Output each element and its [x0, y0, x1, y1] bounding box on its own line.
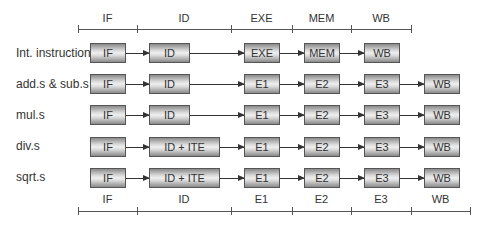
stage-box-if: IF [90, 168, 126, 188]
row-label: add.s & sub.s [16, 77, 89, 91]
stage-box-e3: E3 [364, 168, 400, 188]
stage-box-id: ID [149, 105, 190, 125]
bottom-stage-label-id: ID [137, 193, 231, 205]
stage-box-wb: WB [364, 43, 400, 63]
arrow-icon [126, 178, 149, 179]
arrow-icon [220, 147, 244, 148]
arrow-icon [190, 115, 244, 116]
arrow-icon [280, 53, 304, 54]
stage-box-if: IF [90, 137, 126, 157]
stage-box-wb: WB [424, 137, 460, 157]
stage-box-wb: WB [424, 105, 460, 125]
row-label: Int. instructions [16, 46, 97, 60]
stage-box-id: ID [149, 43, 190, 63]
bottom-stage-label-e2: E2 [292, 193, 351, 205]
bottom-timeline-tick [411, 207, 412, 215]
bottom-stage-label-wb: WB [411, 193, 470, 205]
arrow-icon [340, 178, 364, 179]
stage-box-e1: E1 [244, 137, 280, 157]
stage-box-mem: MEM [304, 43, 340, 63]
stage-box-e2: E2 [304, 74, 340, 94]
bottom-timeline-tick [231, 207, 232, 215]
top-stage-label-wb: WB [351, 12, 411, 24]
arrow-icon [126, 115, 149, 116]
stage-box-e3: E3 [364, 105, 400, 125]
stage-box-e2: E2 [304, 105, 340, 125]
top-stage-label-id: ID [137, 12, 231, 24]
stage-box-e2: E2 [304, 137, 340, 157]
bottom-timeline-tick [351, 207, 352, 215]
arrow-icon [340, 115, 364, 116]
top-timeline-axis [78, 29, 411, 30]
bottom-timeline-tick [470, 207, 471, 215]
top-timeline-tick [351, 25, 352, 33]
top-timeline-tick [78, 25, 79, 33]
bottom-stage-label-e3: E3 [351, 193, 411, 205]
top-timeline-tick [231, 25, 232, 33]
bottom-stage-label-e1: E1 [231, 193, 292, 205]
arrow-icon [400, 115, 424, 116]
arrow-icon [220, 178, 244, 179]
stage-box-e2: E2 [304, 168, 340, 188]
top-timeline-tick [292, 25, 293, 33]
top-timeline-tick [137, 25, 138, 33]
row-label: mul.s [16, 108, 45, 122]
arrow-icon [280, 147, 304, 148]
stage-box-e1: E1 [244, 168, 280, 188]
stage-box-id-ite: ID + ITE [149, 168, 220, 188]
arrow-icon [400, 178, 424, 179]
bottom-timeline-tick [78, 207, 79, 215]
stage-box-e3: E3 [364, 74, 400, 94]
arrow-icon [340, 84, 364, 85]
stage-box-wb: WB [424, 168, 460, 188]
stage-box-id: ID [149, 74, 190, 94]
arrow-icon [126, 147, 149, 148]
arrow-icon [340, 147, 364, 148]
row-label: sqrt.s [16, 170, 45, 184]
stage-box-if: IF [90, 43, 126, 63]
stage-box-if: IF [90, 74, 126, 94]
row-label: div.s [16, 139, 40, 153]
arrow-icon [126, 84, 149, 85]
stage-box-e1: E1 [244, 74, 280, 94]
arrow-icon [340, 53, 364, 54]
top-timeline-tick [411, 25, 412, 33]
bottom-timeline-tick [137, 207, 138, 215]
stage-box-if: IF [90, 105, 126, 125]
top-stage-label-mem: MEM [292, 12, 351, 24]
top-stage-label-if: IF [78, 12, 137, 24]
arrow-icon [280, 84, 304, 85]
stage-box-wb: WB [424, 74, 460, 94]
stage-box-e1: E1 [244, 105, 280, 125]
arrow-icon [400, 147, 424, 148]
stage-box-id-ite: ID + ITE [149, 137, 220, 157]
stage-box-exe: EXE [244, 43, 280, 63]
stage-box-e3: E3 [364, 137, 400, 157]
arrow-icon [190, 84, 244, 85]
arrow-icon [280, 115, 304, 116]
bottom-stage-label-if: IF [78, 193, 137, 205]
arrow-icon [280, 178, 304, 179]
arrow-icon [190, 53, 244, 54]
bottom-timeline-tick [292, 207, 293, 215]
arrow-icon [400, 84, 424, 85]
top-stage-label-exe: EXE [231, 12, 292, 24]
arrow-icon [126, 53, 149, 54]
